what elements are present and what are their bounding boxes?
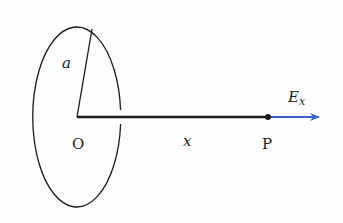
- radius-line: [77, 29, 92, 117]
- point-p-dot: [265, 114, 271, 120]
- origin-label: O: [72, 135, 84, 153]
- field-label: Ex: [287, 88, 306, 108]
- radius-label: a: [62, 54, 71, 72]
- field-label-main: E: [287, 88, 299, 106]
- point-label: P: [262, 135, 272, 153]
- diagram-canvas: a O x P Ex: [0, 0, 343, 223]
- field-label-subscript: x: [299, 95, 306, 108]
- ring-field-diagram: a O x P Ex: [0, 0, 343, 223]
- distance-label: x: [183, 132, 192, 150]
